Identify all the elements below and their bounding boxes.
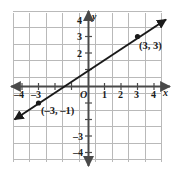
origin-label: O (80, 90, 87, 100)
x-tick-label-neg4: –4 (14, 90, 24, 100)
y-axis-name: y (92, 12, 96, 22)
y-tick-label-3: 3 (77, 32, 82, 42)
point-label-neg3-neg1: (–3, –1) (41, 106, 74, 117)
x-tick-label-neg3: –3 (31, 90, 41, 100)
y-tick-label-neg4: –4 (73, 148, 83, 158)
y-tick-label-4: 4 (77, 16, 82, 26)
x-axis-name: x (163, 88, 168, 98)
x-tick-label-3: 3 (134, 90, 139, 100)
y-tick-label-neg3: –3 (73, 132, 83, 142)
x-tick-label-2: 2 (118, 90, 123, 100)
y-tick-label-2: 2 (77, 49, 82, 59)
coordinate-graph-figure: –4 –3 1 2 3 4 4 3 2 –3 –4 O x y (3, 3) (… (0, 0, 177, 172)
point-label-3-3: (3, 3) (139, 41, 162, 52)
graph-canvas (0, 0, 177, 172)
plotted-point-3-3 (135, 34, 140, 39)
x-tick-label-4: 4 (151, 90, 156, 100)
x-tick-label-1: 1 (102, 90, 107, 100)
